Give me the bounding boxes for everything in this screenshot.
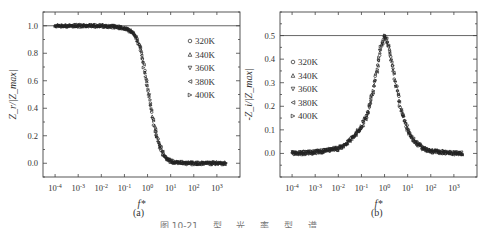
data-point [188, 39, 192, 43]
x-tick-label: 100 [142, 183, 154, 194]
x-tick-label: 102 [188, 183, 200, 194]
x-tick-label: 10-2 [95, 183, 109, 194]
x-tick-label: 10-3 [308, 183, 322, 194]
legend-item: 320K [298, 57, 319, 67]
x-tick-label: 101 [165, 183, 177, 194]
legend-item: 340K [195, 50, 216, 60]
legend-item: 340K [298, 71, 319, 81]
x-tick-label: 10-1 [355, 183, 369, 194]
x-tick-label: 10-4 [285, 183, 299, 194]
x-tick-label: 100 [379, 183, 391, 194]
x-tick-label: 10-3 [71, 183, 85, 194]
data-point [188, 93, 192, 97]
chart-b-plot: 10-410-310-210-11001011021030.00.10.20.3… [240, 0, 485, 228]
y-tick-label: 1.0 [27, 21, 38, 31]
legend-item: 400K [298, 111, 319, 121]
data-point [291, 74, 295, 78]
y-axis-title: Z_r/|Z_max| [7, 70, 18, 120]
data-point [378, 54, 381, 57]
x-tick-label: 101 [402, 183, 414, 194]
data-point [373, 84, 376, 87]
data-point [291, 87, 295, 91]
data-point [142, 66, 145, 69]
y-tick-label: 0.8 [27, 48, 38, 58]
data-point [291, 101, 295, 105]
panel-a: 10-410-310-210-11001011021030.00.20.40.6… [0, 0, 242, 228]
legend: 320K340K360K380K400K [188, 36, 215, 100]
chart-a-plot: 10-410-310-210-11001011021030.00.20.40.6… [0, 0, 242, 228]
data-point [188, 53, 192, 57]
x-tick-label: 10-2 [332, 183, 346, 194]
legend: 320K340K360K380K400K [291, 57, 318, 121]
panel-a-label: (a) [133, 207, 144, 218]
legend-item: 320K [195, 36, 216, 46]
data-point [145, 77, 148, 80]
x-tick-label: 103 [448, 183, 460, 194]
y-tick-label: 0.0 [264, 148, 275, 158]
y-tick-label: 0.3 [264, 78, 275, 88]
y-tick-label: 0.5 [264, 31, 275, 41]
data-point [291, 60, 295, 64]
x-tick-label: 10-4 [48, 183, 62, 194]
data-point [188, 80, 192, 84]
legend-item: 400K [195, 90, 216, 100]
y-tick-label: 0.4 [27, 103, 38, 113]
legend-item: 380K [195, 77, 216, 87]
y-tick-label: 0.4 [264, 54, 275, 64]
y-tick-label: 0.2 [27, 131, 38, 141]
x-tick-label: 103 [211, 183, 223, 194]
figure-caption: 图 10-21 … 型 … 光 … 率 … 型 … 谱 [160, 219, 317, 228]
y-tick-label: 0.1 [264, 125, 275, 135]
data-point [291, 114, 295, 118]
legend-item: 360K [195, 63, 216, 73]
data-point [390, 61, 393, 64]
data-point [148, 96, 151, 99]
x-tick-label: 10-1 [118, 183, 131, 194]
panel-b: 10-410-310-210-11001011021030.00.10.20.3… [240, 0, 482, 228]
y-axis-title: -Z_i/|Z_max| [243, 68, 254, 120]
y-tick-label: 0.0 [27, 158, 38, 168]
y-tick-label: 0.2 [264, 101, 275, 111]
legend-item: 380K [298, 98, 319, 108]
data-series [291, 34, 464, 156]
panel-b-label: (b) [371, 207, 383, 218]
x-tick-label: 102 [425, 183, 437, 194]
y-tick-label: 0.6 [27, 76, 38, 86]
data-point [188, 66, 192, 70]
data-point [149, 99, 152, 102]
legend-item: 360K [298, 84, 319, 94]
